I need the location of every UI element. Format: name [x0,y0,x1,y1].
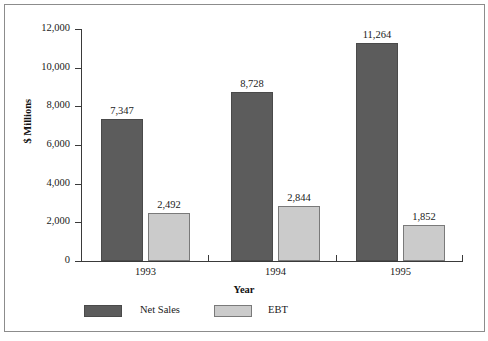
y-axis-tick-label: 6,000 [46,139,70,150]
bar-net-sales-1993 [101,119,143,261]
x-axis-tick [208,255,209,262]
y-axis-tick [75,145,82,146]
y-axis-tick [75,184,82,185]
bar-value-label: 8,728 [219,78,285,89]
y-axis-title: $ Millions [22,126,33,144]
x-axis-category-label: 1994 [246,266,306,277]
bar-value-label: 7,347 [89,105,155,116]
legend-swatch-net-sales [84,305,122,317]
y-axis-tick [75,222,82,223]
x-axis-line [81,261,462,262]
bar-value-label: 2,492 [136,199,202,210]
y-axis-tick-label: 0 [65,255,70,266]
bar-value-label: 2,844 [266,192,332,203]
y-axis-tick [75,106,82,107]
y-axis-tick [75,29,82,30]
x-axis-tick [81,255,82,262]
legend-label-net-sales: Net Sales [140,304,180,315]
bar-ebt-1995 [403,225,445,261]
figure-border-top [4,4,484,5]
x-axis-tick [462,255,463,262]
x-axis-category-label: 1995 [371,266,431,277]
chart-figure: 02,0004,0006,0008,00010,00012,000 199319… [0,0,488,341]
figure-border-right [484,4,485,332]
legend-label-ebt: EBT [268,304,288,315]
bar-ebt-1993 [148,213,190,261]
y-axis-tick [75,68,82,69]
bar-net-sales-1995 [356,43,398,261]
figure-border-left [4,4,5,332]
bar-net-sales-1994 [231,92,273,261]
y-axis-tick-label: 2,000 [46,216,70,227]
x-axis-category-label: 1993 [116,266,176,277]
bar-value-label: 1,852 [391,211,457,222]
y-axis-tick-label: 12,000 [41,23,70,34]
figure-border-bottom [4,331,484,332]
bar-ebt-1994 [278,206,320,261]
y-axis-tick-label: 8,000 [46,100,70,111]
x-axis-tick [336,255,337,262]
legend-swatch-ebt [214,305,252,317]
y-axis-tick-label: 4,000 [46,178,70,189]
x-axis-title: Year [0,284,488,295]
bar-value-label: 11,264 [344,29,410,40]
y-axis-tick-label: 10,000 [41,62,70,73]
